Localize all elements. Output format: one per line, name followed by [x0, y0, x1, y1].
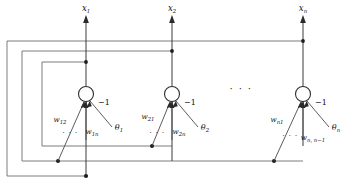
arrow-head-xn: [300, 15, 306, 23]
network-diagram-canvas: w12 · · · w1n −1 θ1 w21 · · · w2n −1 θ2: [0, 0, 344, 183]
output-label-x1: x1: [82, 3, 90, 14]
neuron-2-bias-label: −1: [184, 98, 196, 107]
output-axis-group: [83, 15, 306, 176]
output-label-x2: x2: [168, 3, 177, 14]
neuron-1-group: w12 · · · w1n −1 θ1: [53, 87, 123, 162]
neuron-2-threshold-label: θ2: [201, 123, 210, 133]
neuron-n-threshold-label: θn: [332, 123, 341, 133]
inter-neuron-ellipsis: · · ·: [230, 83, 253, 94]
neuron-n-group: wn1 · · · wn, n−1 −1 θn: [270, 87, 340, 162]
neuron-2-weight-left-label: w21: [141, 112, 154, 122]
output-label-xn: xn: [299, 3, 308, 14]
outer-feedback-loop: [7, 41, 303, 176]
neuron-n-node: [296, 87, 311, 102]
neuron-n-bias-label: −1: [315, 98, 327, 107]
junction-dot-xn-outer: [301, 39, 305, 43]
neuron-1-bias-label: −1: [98, 98, 110, 107]
arrow-head-x1: [83, 15, 89, 23]
output-label-group: x1 x2 xn: [82, 3, 308, 14]
neuron-1-node: [79, 87, 94, 102]
neuron-2-weight-right-label: w2n: [172, 127, 186, 137]
junction-dot-x2-middle: [170, 49, 174, 53]
junction-dot-x1-bottom: [84, 174, 88, 178]
neuron-n-weight-right-label: wn, n−1: [301, 133, 325, 143]
neuron-2-node: [165, 87, 180, 102]
neuron-1-threshold-label: θ1: [115, 123, 123, 133]
junction-dot-x1-inner: [84, 60, 88, 64]
neuron-n-weight-left-label: wn1: [270, 115, 283, 125]
neuron-2-dots: · · ·: [149, 128, 165, 137]
middle-feedback-loop: [22, 51, 303, 161]
neuron-2-group: w21 · · · w2n −1 θ2: [141, 87, 209, 147]
junction-dot-group: [56, 39, 305, 178]
recurrent-network-figure: w12 · · · w1n −1 θ1 w21 · · · w2n −1 θ2: [0, 0, 344, 183]
neuron-1-dots: · · ·: [62, 128, 78, 137]
neuron-1-weight-left-label: w12: [53, 115, 67, 125]
neuron-2-synapse-left: [152, 102, 170, 146]
arrow-head-x2: [169, 15, 175, 23]
neuron-n-dots: · · ·: [282, 131, 298, 140]
neuron-1-weight-right-label: w1n: [85, 127, 99, 137]
feedback-loop-group: [7, 41, 303, 176]
